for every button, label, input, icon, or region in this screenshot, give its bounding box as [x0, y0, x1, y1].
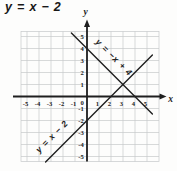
- y-tick-label: -2: [78, 117, 84, 124]
- coordinate-plane-graph: xy-5-4-3-2-112345-5-4-3-2-1123450y = −x …: [0, 0, 177, 171]
- x-axis-label: x: [167, 94, 173, 104]
- worksheet-figure: y = x − 2 xy-5-4-3-2-112345-5-4-3-2-1123…: [0, 0, 177, 171]
- axes: [13, 27, 162, 162]
- y-tick-label: -1: [78, 105, 84, 112]
- x-tick-label: 1: [96, 100, 99, 107]
- origin-label: 0: [81, 99, 85, 106]
- y-tick-label: -4: [78, 141, 84, 148]
- y-axis-arrowhead: [84, 20, 90, 28]
- x-tick-label: -4: [35, 100, 41, 107]
- x-tick-label: -2: [59, 100, 65, 107]
- x-tick-label: -5: [23, 100, 29, 107]
- y-tick-label: -5: [78, 153, 84, 160]
- y-tick-label: -3: [78, 129, 84, 136]
- y-axis-label: y: [82, 7, 88, 17]
- line-equation-label-1: y = x − 2: [33, 118, 70, 155]
- x-tick-label: -1: [71, 100, 77, 107]
- y-tick-label: 1: [81, 81, 84, 88]
- x-axis-arrowhead: [160, 94, 167, 100]
- x-tick-label: -3: [47, 100, 53, 107]
